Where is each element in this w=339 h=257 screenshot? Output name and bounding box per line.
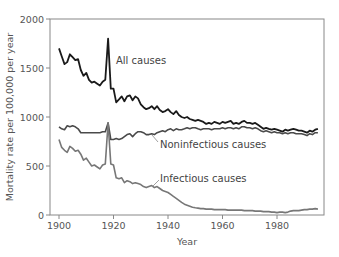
infectious-causes-label: Infectious causes [160, 173, 247, 184]
noninfectious-leader-line [152, 135, 158, 142]
x-tick-label: 1900 [47, 220, 71, 231]
y-axis-title: Mortality rate per 100,000 per year [4, 33, 15, 202]
mortality-chart: 0 500 1000 1500 2000 Mortality rate per … [0, 0, 339, 257]
y-tick-label: 1500 [20, 63, 44, 74]
x-tick-label: 1920 [101, 220, 125, 231]
x-axis-title: Year [176, 236, 197, 247]
y-axis: 0 500 1000 1500 2000 Mortality rate per … [4, 14, 50, 221]
y-tick-label: 500 [26, 161, 44, 172]
x-tick-label: 1980 [265, 220, 289, 231]
all-causes-label: All causes [116, 55, 166, 66]
noninfectious-causes-label: Noninfectious causes [160, 139, 266, 150]
y-tick-label: 1000 [20, 112, 44, 123]
infectious-causes-line [59, 123, 318, 213]
y-tick-label: 0 [38, 210, 44, 221]
series-group [59, 39, 318, 213]
x-tick-label: 1940 [156, 220, 180, 231]
x-tick-label: 1960 [210, 220, 234, 231]
y-tick-label: 2000 [20, 14, 44, 25]
all-causes-line [59, 39, 318, 133]
x-axis: 1900 1920 1940 1960 1980 Year [47, 215, 289, 247]
infectious-leader-line [152, 180, 159, 187]
